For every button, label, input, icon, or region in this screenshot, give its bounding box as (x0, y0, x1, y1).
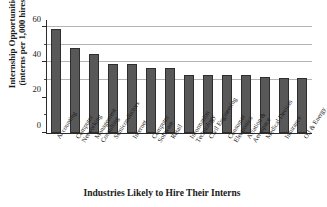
y-axis-tick (42, 97, 46, 98)
y-axis-tick (42, 132, 46, 133)
bar-slot (179, 20, 198, 133)
y-axis-tick-label: 0 (37, 120, 41, 129)
bar-slot (47, 20, 66, 133)
y-axis-title-line-2: (interns per 1,000 hires) (18, 0, 28, 86)
bar (297, 78, 307, 133)
y-axis-title: Internship Opportunities (interns per 1,… (3, 0, 33, 101)
y-axis-tick-label: 60 (33, 14, 42, 23)
x-axis-category-labels: AccountingComputerNetworkingManagementCo… (47, 136, 312, 184)
y-axis-tick (42, 61, 46, 62)
bar (51, 29, 61, 133)
y-axis-tick-label: 20 (33, 85, 42, 94)
bar-slot (142, 20, 161, 133)
y-axis-minor-tick (44, 79, 46, 80)
bar (184, 75, 194, 133)
y-axis-minor-tick (44, 44, 46, 45)
y-axis-minor-tick (44, 114, 46, 115)
x-axis-title: Industries Likely to Hire Their Interns (0, 188, 324, 198)
y-axis-tick (42, 26, 46, 27)
y-axis-tick-label: 40 (33, 50, 42, 59)
